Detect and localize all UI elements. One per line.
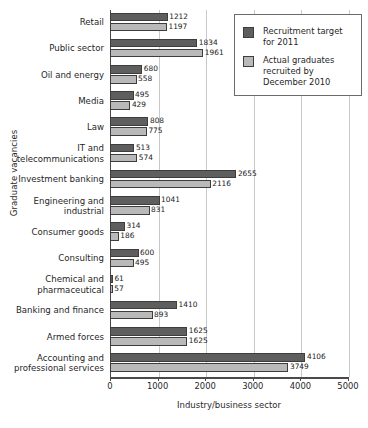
bar-value-label: 1834 <box>197 39 217 48</box>
category-label: Retail <box>0 17 104 28</box>
bar-value-label: 429 <box>130 101 146 110</box>
category-label: Law <box>0 122 104 133</box>
x-axis-line <box>110 377 348 379</box>
bar-value-label: 600 <box>139 249 155 258</box>
x-axis-tick-label: 0 <box>107 381 112 391</box>
category-label: Investment banking <box>0 174 104 185</box>
chart-row: Armed forces16251625 <box>0 326 368 350</box>
chart-row: Engineering andindustrial1041831 <box>0 195 368 219</box>
bar-target <box>110 91 134 100</box>
bar-value-label: 186 <box>119 232 135 241</box>
bar-value-label: 808 <box>148 117 164 126</box>
chart-row: Retail12121197 <box>0 11 368 35</box>
bar-value-label: 4106 <box>305 353 325 362</box>
bar-value-label: 1041 <box>160 196 180 205</box>
bar-value-label: 61 <box>113 275 124 284</box>
bar-actual <box>110 127 147 136</box>
x-axis-tick-label: 3000 <box>242 381 263 391</box>
bar-value-label: 831 <box>150 206 166 215</box>
category-label: Chemical andpharmaceutical <box>0 274 104 295</box>
category-label: Armed forces <box>0 332 104 343</box>
bar-actual <box>110 75 137 84</box>
bar-value-label: 1625 <box>187 327 207 336</box>
bar-actual <box>110 363 288 372</box>
bar-value-label: 57 <box>113 285 124 294</box>
bar-actual <box>110 206 150 215</box>
x-axis-title: Industry/business sector <box>110 400 348 410</box>
bar-value-label: 513 <box>134 144 150 153</box>
x-axis-tick-label: 5000 <box>337 381 358 391</box>
chart-row: Chemical andpharmaceutical6157 <box>0 273 368 297</box>
bar-actual <box>110 259 134 268</box>
bar-group: 808775 <box>110 116 348 140</box>
bar-group: 1410893 <box>110 299 348 323</box>
chart-row: Public sector18341961 <box>0 37 368 61</box>
bar-value-label: 558 <box>137 75 153 84</box>
chart-row: IT andtelecommunications513574 <box>0 142 368 166</box>
chart-row: Accounting andprofessional services41063… <box>0 352 368 376</box>
chart-row: Banking and finance1410893 <box>0 299 368 323</box>
bar-actual <box>110 311 153 320</box>
bar-value-label: 680 <box>142 65 158 74</box>
bar-actual <box>110 49 203 58</box>
bar-target <box>110 170 236 179</box>
bar-group: 26552116 <box>110 168 348 192</box>
chart-row: Law808775 <box>0 116 368 140</box>
chart-row: Oil and energy680558 <box>0 64 368 88</box>
bar-group: 16251625 <box>110 326 348 350</box>
bar-target <box>110 222 125 231</box>
category-label: Media <box>0 96 104 107</box>
bar-group: 6157 <box>110 273 348 297</box>
bar-group: 680558 <box>110 64 348 88</box>
bar-value-label: 775 <box>147 127 163 136</box>
category-label: Consumer goods <box>0 227 104 238</box>
bar-group: 41063749 <box>110 352 348 376</box>
bar-value-label: 495 <box>134 91 150 100</box>
bar-value-label: 574 <box>137 154 153 163</box>
bar-group: 600495 <box>110 247 348 271</box>
bar-target <box>110 39 197 48</box>
bar-value-label: 1410 <box>177 301 197 310</box>
bar-value-label: 1212 <box>168 13 188 22</box>
bar-chart: Graduate vacancies Industry/business sec… <box>0 0 368 428</box>
bar-value-label: 893 <box>153 311 169 320</box>
bar-value-label: 3749 <box>288 363 308 372</box>
bar-target <box>110 249 139 258</box>
category-label: IT andtelecommunications <box>0 143 104 164</box>
bar-target <box>110 144 134 153</box>
bar-actual <box>110 232 119 241</box>
bar-actual <box>110 154 137 163</box>
bar-value-label: 314 <box>125 222 141 231</box>
bar-actual <box>110 337 187 346</box>
chart-row: Media495429 <box>0 90 368 114</box>
chart-row: Investment banking26552116 <box>0 168 368 192</box>
bar-actual <box>110 101 130 110</box>
bar-target <box>110 353 305 362</box>
bar-group: 1041831 <box>110 195 348 219</box>
bar-value-label: 1625 <box>187 337 207 346</box>
category-label: Public sector <box>0 43 104 54</box>
bar-target <box>110 65 142 74</box>
bar-value-label: 2116 <box>211 180 231 189</box>
category-label: Accounting andprofessional services <box>0 353 104 374</box>
bar-target <box>110 13 168 22</box>
bar-group: 314186 <box>110 221 348 245</box>
category-label: Engineering andindustrial <box>0 196 104 217</box>
bar-group: 12121197 <box>110 11 348 35</box>
bar-target <box>110 196 160 205</box>
x-axis-tick-label: 1000 <box>147 381 168 391</box>
category-label: Consulting <box>0 253 104 264</box>
x-axis-tick-label: 2000 <box>195 381 216 391</box>
category-label: Banking and finance <box>0 305 104 316</box>
bar-target <box>110 327 187 336</box>
category-label: Oil and energy <box>0 70 104 81</box>
bar-value-label: 495 <box>134 259 150 268</box>
bar-actual <box>110 180 211 189</box>
bar-group: 513574 <box>110 142 348 166</box>
bar-value-label: 2655 <box>236 170 256 179</box>
bar-actual <box>110 23 167 32</box>
chart-row: Consumer goods314186 <box>0 221 368 245</box>
chart-row: Consulting600495 <box>0 247 368 271</box>
bar-value-label: 1961 <box>203 49 223 58</box>
bar-group: 18341961 <box>110 37 348 61</box>
